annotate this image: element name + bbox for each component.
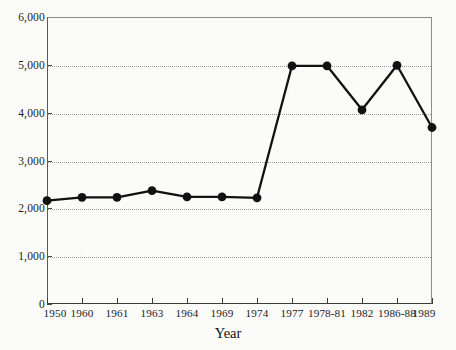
- x-tick-mark: [292, 298, 293, 304]
- y-tick-label: 6,000: [0, 11, 45, 23]
- y-tick-label: 4,000: [0, 107, 45, 119]
- gridline: [48, 209, 431, 210]
- y-tick-label: 0: [0, 298, 45, 310]
- x-tick-label: 1964: [176, 307, 199, 319]
- x-tick-label: 1986-88: [378, 307, 416, 319]
- x-tick-label: 1982: [351, 307, 374, 319]
- x-tick-label: 1977: [281, 307, 304, 319]
- y-tick-label: 5,000: [0, 59, 45, 71]
- x-tick-label: 1950: [44, 307, 67, 319]
- x-tick-mark: [47, 298, 48, 304]
- chart-figure: 01,0002,0003,0004,0005,0006,000 19501960…: [0, 0, 456, 350]
- plot-area: [47, 17, 432, 304]
- x-tick-label: 1963: [141, 307, 164, 319]
- x-tick-mark: [362, 298, 363, 304]
- y-tick-mark: [47, 304, 52, 305]
- y-tick-label: 3,000: [0, 155, 45, 167]
- x-tick-mark: [187, 298, 188, 304]
- x-tick-mark: [327, 298, 328, 304]
- x-tick-label: 1969: [211, 307, 234, 319]
- x-tick-label: 1974: [246, 307, 269, 319]
- x-tick-mark: [432, 298, 433, 304]
- gridline: [48, 114, 431, 115]
- x-tick-mark: [152, 298, 153, 304]
- gridline: [48, 66, 431, 67]
- y-tick-label: 1,000: [0, 250, 45, 262]
- x-tick-label: 1989: [413, 307, 436, 319]
- x-tick-label: 1960: [71, 307, 94, 319]
- x-tick-label: 1978-81: [308, 307, 346, 319]
- gridline: [48, 162, 431, 163]
- x-axis-title: Year: [0, 325, 456, 342]
- x-tick-label: 1961: [106, 307, 129, 319]
- x-tick-mark: [117, 298, 118, 304]
- x-tick-mark: [82, 298, 83, 304]
- x-tick-mark: [397, 298, 398, 304]
- x-tick-mark: [257, 298, 258, 304]
- x-tick-mark: [222, 298, 223, 304]
- gridline: [48, 257, 431, 258]
- y-tick-label: 2,000: [0, 202, 45, 214]
